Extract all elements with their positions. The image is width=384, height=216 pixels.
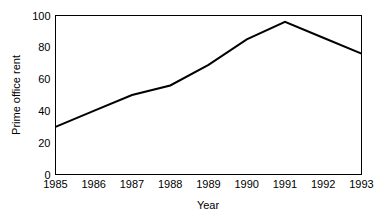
x-axis-tick-label: 1990 — [235, 178, 259, 190]
y-axis-title: Prime office rent — [10, 55, 22, 135]
line-chart: 020406080100 198519861987198819891990199… — [0, 0, 384, 216]
x-axis-tick-label: 1989 — [196, 178, 220, 190]
y-axis-tick-label: 80 — [38, 41, 50, 53]
x-axis-tick-label: 1986 — [82, 178, 106, 190]
x-axis-tick-labels: 198519861987198819891990199119921993 — [43, 178, 373, 190]
x-axis-tick-label: 1991 — [273, 178, 297, 190]
y-axis-tick-label: 20 — [38, 137, 50, 149]
y-axis-tick-label: 60 — [38, 73, 50, 85]
x-axis-tick-label: 1987 — [120, 178, 144, 190]
y-axis-tick-label: 100 — [32, 10, 50, 22]
x-axis-tick-label: 1985 — [43, 178, 67, 190]
x-axis-tick-label: 1988 — [158, 178, 182, 190]
y-axis-tick-label: 40 — [38, 105, 50, 117]
x-axis-tick-label: 1993 — [349, 178, 373, 190]
chart-canvas: 020406080100 198519861987198819891990199… — [0, 0, 384, 216]
x-axis-title: Year — [197, 199, 220, 211]
x-axis-tick-label: 1992 — [311, 178, 335, 190]
